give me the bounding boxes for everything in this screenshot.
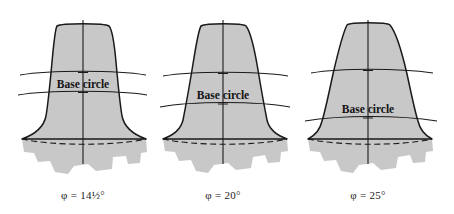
base-circle-label-3: Base circle [342, 103, 394, 115]
tooth-profile-25: Base circle [305, 20, 437, 173]
tooth-profile-14-5: Base circle [18, 20, 147, 174]
caption-tooth-14-5: φ = 14½° [23, 189, 143, 201]
caption-tooth-25: φ = 25° [308, 189, 428, 201]
tooth-profile-20: Base circle [160, 20, 290, 173]
base-circle-label-1: Base circle [57, 78, 109, 90]
tooth-body-2 [163, 24, 287, 139]
caption-tooth-20: φ = 20° [163, 189, 283, 201]
gear-tooth-profiles-figure: Base circle Base circle Base circle [0, 0, 454, 214]
tooth-body-3 [308, 23, 432, 139]
base-circle-label-2: Base circle [197, 89, 249, 101]
